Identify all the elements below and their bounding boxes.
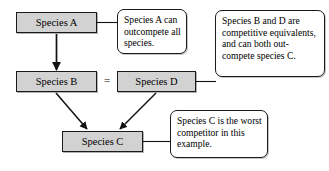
arrow-species-b-to-species-c [56, 93, 87, 129]
node-species-c: Species C [62, 131, 143, 152]
node-species-d: Species D [117, 71, 196, 92]
equals-operator-species-b-species-d: = [100, 75, 114, 89]
arrow-species-d-to-species-c [120, 93, 156, 129]
node-species-b: Species B [16, 71, 97, 92]
node-species-a: Species A [16, 12, 97, 33]
callout-species-c: Species C is the worst competitor in thi… [170, 110, 268, 158]
callout-species-a: Species A can outcompete all species. [117, 9, 187, 54]
diagram-canvas: Species A Species B Species D Species C … [0, 0, 329, 171]
callout-species-b-and-d: Species B and D are competitive equivale… [215, 10, 325, 77]
